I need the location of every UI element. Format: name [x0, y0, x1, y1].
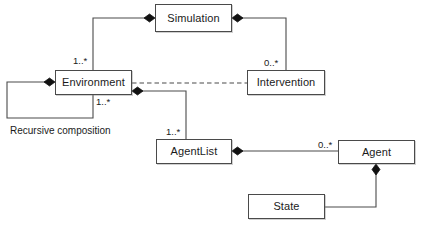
- class-box-intervention[interactable]: Intervention: [247, 70, 325, 95]
- class-box-environment[interactable]: Environment: [55, 70, 132, 95]
- class-name-simulation: Simulation: [167, 13, 219, 24]
- class-name-agentlist: AgentList: [171, 146, 218, 157]
- multiplicity-label-agentlist-agent: 0..*: [318, 140, 332, 150]
- class-box-state[interactable]: State: [248, 194, 325, 219]
- class-box-agent[interactable]: Agent: [338, 140, 415, 164]
- class-box-agentlist[interactable]: AgentList: [156, 139, 232, 164]
- connector-agent-state: [325, 170, 376, 207]
- class-name-intervention: Intervention: [257, 77, 316, 88]
- multiplicity-label-environment-recursive: 1..*: [96, 97, 110, 107]
- class-box-simulation[interactable]: Simulation: [155, 4, 232, 32]
- class-name-agent: Agent: [362, 147, 391, 158]
- composition-diamond-environment-right: [132, 87, 143, 95]
- multiplicity-label-environment-agentlist: 1..*: [166, 127, 180, 137]
- annotation-recursive-composition: Recursive composition: [10, 126, 111, 136]
- composition-diamond-simulation-right: [232, 14, 243, 22]
- multiplicity-label-simulation-intervention: 0..*: [264, 58, 278, 68]
- connector-simulation-intervention: [237, 18, 286, 70]
- composition-diamond-agentlist-right: [232, 147, 243, 155]
- composition-diamond-agent-bottom: [372, 164, 380, 175]
- composition-diamond-environment-left: [44, 78, 55, 86]
- composition-diamond-simulation-left: [144, 14, 155, 22]
- diagram-connectors-layer: [0, 0, 423, 228]
- uml-class-diagram: Simulation Environment Intervention Agen…: [0, 0, 423, 228]
- class-name-environment: Environment: [62, 77, 125, 88]
- connector-simulation-environment: [93, 18, 150, 70]
- multiplicity-label-simulation-environment: 1..*: [73, 56, 87, 66]
- class-name-state: State: [273, 201, 299, 212]
